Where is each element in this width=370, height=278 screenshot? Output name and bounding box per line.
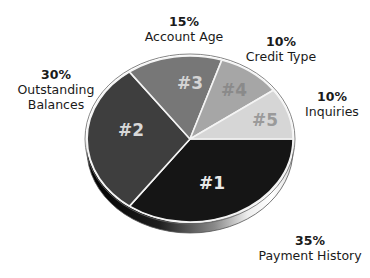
label-outstanding-balances-line2: Balances [14,97,98,112]
slice-2-rank: #2 [118,120,144,140]
label-account-age-name: Account Age [138,29,230,44]
slice-4-rank: #4 [221,80,247,100]
label-credit-type-pct: 10% [240,34,322,49]
label-outstanding-balances: 30% Outstanding Balances [14,67,98,112]
label-credit-type-name: Credit Type [240,49,322,64]
label-outstanding-balances-line1: Outstanding [14,82,98,97]
label-credit-type: 10% Credit Type [240,34,322,64]
label-account-age-pct: 15% [138,14,230,29]
slice-1-rank: #1 [199,173,225,193]
label-inquiries-pct: 10% [300,89,364,104]
label-payment-history-name: Payment History [254,248,366,263]
label-inquiries-name: Inquiries [300,104,364,119]
slice-3-rank: #3 [177,73,203,93]
slice-5-rank: #5 [252,110,278,130]
label-payment-history: 35% Payment History [254,233,366,263]
label-account-age: 15% Account Age [138,14,230,44]
label-inquiries: 10% Inquiries [300,89,364,119]
label-payment-history-pct: 35% [254,233,366,248]
label-outstanding-balances-pct: 30% [14,67,98,82]
